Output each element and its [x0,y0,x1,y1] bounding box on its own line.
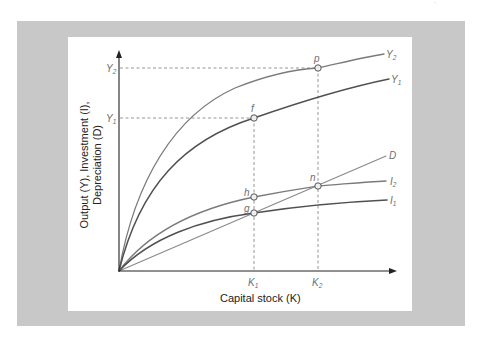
point-label-n: n [310,172,316,183]
solow-diagram: p f h g n Y2 Y1 D I2 I1 Y2 Y1 K1 K2 Capi… [0,0,480,342]
point-label-f: f [251,103,255,114]
point-label-g: g [244,203,250,214]
curve-label-I2: I2 [390,176,397,188]
y-axis-title-line2: Depreciation (D) [91,125,103,205]
point-n [315,183,321,189]
x-tick-K1: K1 [248,277,259,289]
point-h [251,194,257,200]
curve-label-I1: I1 [390,195,397,207]
curve-label-D: D [389,150,396,161]
point-label-h: h [244,187,250,198]
points [251,65,321,216]
y-tick-Y2: Y2 [106,63,117,75]
x-axis-title: Capital stock (K) [220,292,301,304]
point-label-p: p [313,53,320,64]
point-p [315,65,321,71]
y-axis-title-line1: Output (Y), Investment (I), [78,101,90,228]
point-f [251,115,257,121]
curve-label-Y1: Y1 [391,74,402,86]
x-tick-K2: K2 [312,277,323,289]
axes [119,54,393,271]
y-tick-Y1: Y1 [106,113,117,125]
curve-Y2 [119,54,384,271]
point-g [251,210,257,216]
curve-label-Y2: Y2 [386,49,397,61]
